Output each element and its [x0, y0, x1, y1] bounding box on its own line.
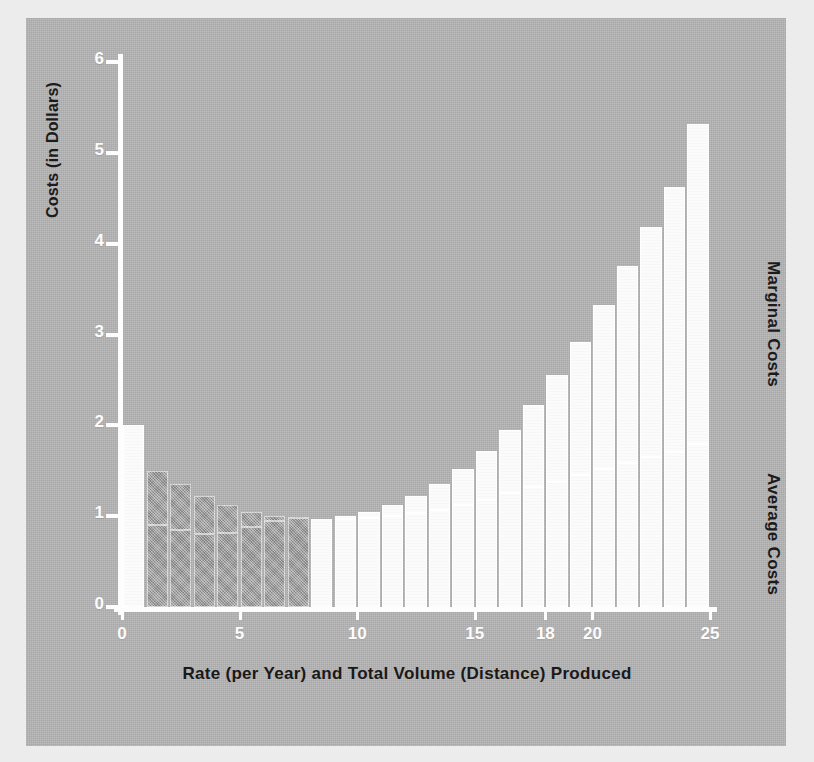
bar	[570, 342, 591, 607]
bar	[452, 469, 473, 607]
y-tick-label: 5	[82, 144, 104, 156]
x-tick-mark	[121, 611, 124, 620]
bar-segment-average	[217, 533, 238, 607]
bar-segment-marginal	[335, 516, 356, 519]
bar-segment-average	[264, 516, 285, 521]
x-tick-label: 15	[455, 624, 495, 644]
x-tick-mark	[591, 611, 594, 620]
y-tick-mark	[106, 605, 118, 609]
bar-segment-marginal	[617, 266, 638, 463]
bar-segment-marginal	[429, 484, 450, 509]
x-axis-title: Rate (per Year) and Total Volume (Distan…	[0, 664, 814, 684]
x-tick-mark	[474, 611, 477, 620]
bar-segment-marginal	[640, 457, 661, 607]
bar-segment-marginal	[452, 505, 473, 607]
bar-segment-marginal	[405, 496, 426, 513]
y-tick-mark	[106, 151, 118, 155]
bar	[664, 187, 685, 607]
bar-segment-marginal	[593, 305, 614, 469]
y-tick-label: 1	[82, 507, 104, 519]
bar	[335, 516, 356, 607]
bar	[617, 266, 638, 607]
bar-segment-average	[147, 471, 168, 526]
bar-segment-average	[241, 512, 262, 527]
x-tick-mark	[239, 611, 242, 620]
bar-segment-average	[288, 517, 309, 518]
bar-segment-marginal	[123, 425, 144, 607]
bar-segment-average	[147, 525, 168, 607]
bar	[288, 517, 309, 607]
bar-segment-marginal	[382, 505, 403, 516]
bar-segment-marginal	[358, 512, 379, 518]
y-tick-label: 6	[82, 53, 104, 65]
x-tick-label: 25	[690, 624, 730, 644]
bar-segment-marginal	[687, 124, 708, 444]
bar-segment-marginal	[593, 469, 614, 607]
y-tick-mark	[106, 60, 118, 64]
bar	[358, 512, 379, 607]
bar-segment-marginal	[617, 463, 638, 607]
bar	[241, 512, 262, 607]
bar-segment-average	[264, 521, 285, 607]
x-tick-label: 20	[572, 624, 612, 644]
bar-segment-marginal	[523, 487, 544, 607]
bar-segment-marginal	[358, 518, 379, 607]
y-tick-mark	[106, 423, 118, 427]
bar-segment-marginal	[405, 513, 426, 607]
bar-segment-marginal	[499, 430, 520, 494]
bar-segment-marginal	[335, 519, 356, 607]
chart-panel: 0123456 051015182025 Costs (in Dollars) …	[26, 18, 786, 746]
bar	[170, 484, 191, 607]
y-tick-mark	[106, 242, 118, 246]
bar	[687, 124, 708, 607]
y-tick-label: 4	[82, 235, 104, 247]
bar	[311, 519, 332, 607]
bar-segment-marginal	[523, 405, 544, 487]
y-tick-label: 3	[82, 326, 104, 338]
bar-segment-marginal	[429, 510, 450, 607]
bar-segment-average	[194, 534, 215, 607]
bar	[499, 430, 520, 607]
bar	[147, 471, 168, 607]
bar-segment-marginal	[476, 500, 497, 607]
bar	[640, 227, 661, 607]
bar	[593, 305, 614, 607]
plot-area: 0123456 051015182025	[122, 62, 710, 607]
bar	[382, 505, 403, 607]
bar-segment-marginal	[476, 451, 497, 500]
bar	[264, 516, 285, 607]
y-axis-title: Costs (in Dollars)	[44, 18, 62, 218]
y-tick-mark	[106, 514, 118, 518]
x-tick-mark	[709, 611, 712, 620]
bar-segment-average	[217, 505, 238, 532]
bar	[217, 505, 238, 607]
bar	[546, 375, 567, 607]
x-tick-label: 0	[102, 624, 142, 644]
bar-segment-marginal	[546, 482, 567, 607]
bar-segment-marginal	[546, 375, 567, 481]
series-label-average: Average Costs	[763, 473, 783, 595]
bar-segment-marginal	[570, 342, 591, 476]
bar-segment-marginal	[499, 493, 520, 607]
bar	[429, 484, 450, 607]
bar-segment-marginal	[687, 444, 708, 608]
bar-segment-marginal	[452, 469, 473, 505]
bar-segment-average	[288, 518, 309, 607]
bar	[194, 496, 215, 607]
bar	[123, 425, 144, 607]
bar-segment-marginal	[640, 227, 661, 457]
bar-segment-average	[194, 496, 215, 534]
bar-segment-marginal	[570, 475, 591, 607]
x-tick-mark	[356, 611, 359, 620]
bar-segment-marginal	[664, 452, 685, 607]
x-tick-label: 18	[525, 624, 565, 644]
y-tick-mark	[106, 333, 118, 337]
y-tick-label: 2	[82, 416, 104, 428]
bar-segment-average	[170, 530, 191, 607]
bar-segment-average	[241, 527, 262, 607]
x-tick-mark	[544, 611, 547, 620]
series-label-marginal: Marginal Costs	[763, 261, 783, 387]
x-tick-label: 10	[337, 624, 377, 644]
chart-figure: 0123456 051015182025 Costs (in Dollars) …	[0, 0, 814, 762]
bar	[405, 496, 426, 607]
